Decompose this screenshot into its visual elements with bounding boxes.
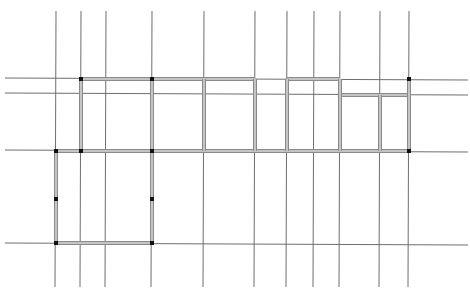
wall-node[interactable] bbox=[407, 77, 411, 81]
wall-node[interactable] bbox=[407, 149, 411, 153]
wall-segments bbox=[56, 79, 409, 243]
wall-nodes bbox=[54, 77, 411, 245]
wall-node[interactable] bbox=[54, 197, 58, 201]
wall-node[interactable] bbox=[150, 241, 154, 245]
wall-node[interactable] bbox=[54, 241, 58, 245]
wall-node[interactable] bbox=[79, 149, 83, 153]
floor-plan-canvas bbox=[0, 0, 470, 296]
horizontal-grid-lines bbox=[5, 78, 468, 245]
wall-node[interactable] bbox=[150, 77, 154, 81]
wall-node[interactable] bbox=[150, 197, 154, 201]
wall-node[interactable] bbox=[150, 149, 154, 153]
wall-node[interactable] bbox=[54, 149, 58, 153]
wall-node[interactable] bbox=[79, 77, 83, 81]
